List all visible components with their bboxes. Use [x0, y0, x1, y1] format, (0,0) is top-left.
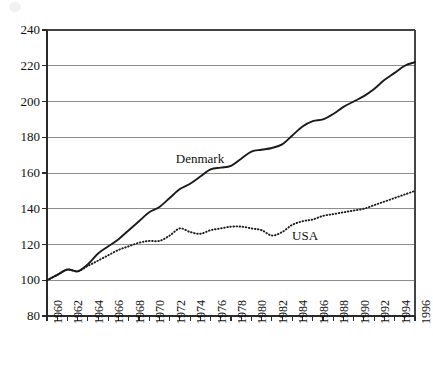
- x-tick-label-1996: 1996: [420, 300, 432, 324]
- y-tick-label-100: 100: [2, 273, 40, 286]
- x-tick-label-1986: 1986: [318, 300, 330, 324]
- x-tick-label-1972: 1972: [175, 300, 187, 324]
- x-tick-label-1976: 1976: [216, 300, 228, 324]
- x-tick-label-1966: 1966: [113, 300, 125, 324]
- x-tick-label-1960: 1960: [52, 300, 64, 324]
- x-tick-label-1968: 1968: [134, 300, 146, 324]
- x-tick-label-1970: 1970: [154, 300, 166, 324]
- y-tick-label-220: 220: [2, 59, 40, 72]
- x-tick-label-1974: 1974: [195, 300, 207, 324]
- x-tick-label-1980: 1980: [256, 300, 268, 324]
- x-tick-label-1992: 1992: [379, 300, 391, 324]
- x-tick-label-1962: 1962: [72, 300, 84, 324]
- x-tick-label-1994: 1994: [400, 300, 412, 324]
- y-tick-label-140: 140: [2, 202, 40, 215]
- y-tick-label-80: 80: [2, 309, 40, 322]
- y-tick-label-120: 120: [2, 238, 40, 251]
- y-tick-label-200: 200: [2, 95, 40, 108]
- x-tick-label-1984: 1984: [297, 300, 309, 324]
- series-label-denmark: Denmark: [176, 152, 224, 165]
- x-tick-label-1982: 1982: [277, 300, 289, 324]
- chart-figure: 80100120140160180200220240 1960196219641…: [0, 0, 433, 369]
- y-tick-label-160: 160: [2, 166, 40, 179]
- series-line-denmark: [47, 62, 415, 280]
- series-label-usa: USA: [292, 229, 318, 242]
- x-tick-label-1990: 1990: [359, 300, 371, 324]
- x-tick-label-1964: 1964: [93, 300, 105, 324]
- y-tick-label-180: 180: [2, 130, 40, 143]
- x-tick-label-1988: 1988: [338, 300, 350, 324]
- y-tick-label-240: 240: [2, 23, 40, 36]
- x-tick-label-1978: 1978: [236, 300, 248, 324]
- series-line-usa: [47, 191, 415, 280]
